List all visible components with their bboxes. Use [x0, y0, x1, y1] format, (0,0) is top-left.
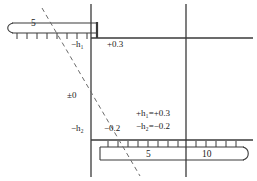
left-scale-label-5: 5 — [31, 19, 36, 29]
bottom-scale-label-10: 10 — [202, 150, 212, 160]
label-minus-h2-left: −h₂ — [71, 124, 84, 133]
label-plus-0-3: +0.3 — [107, 40, 123, 49]
technical-section-diagram: 5 −h₁ +0.3 ±0 −h₂ −0.2 +h₁=+0.3 −h₂=−0.2… — [0, 0, 257, 181]
bottom-scale-ticks — [108, 141, 236, 147]
label-plus-h1-equals: +h₁=+0.3 — [136, 109, 170, 118]
label-plus-minus-zero: ±0 — [67, 91, 76, 100]
left-horizontal-scale-bar — [8, 23, 98, 39]
diagram-canvas — [0, 0, 257, 181]
label-minus-h2-equals: −h₂=−0.2 — [136, 122, 170, 131]
label-minus-h1: −h₁ — [71, 40, 84, 49]
bottom-scale-label-5: 5 — [146, 150, 151, 160]
bottom-horizontal-scale-bar — [100, 141, 248, 160]
label-minus-0-2-left: −0.2 — [104, 124, 120, 133]
